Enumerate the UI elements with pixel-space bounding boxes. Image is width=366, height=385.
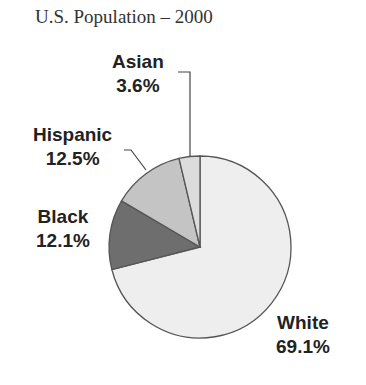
label-asian-pct: 3.6% [112,74,164,98]
pie-slices [109,156,291,338]
hispanic-leader-line [124,150,146,170]
label-hispanic: Hispanic 12.5% [33,123,112,171]
label-black-pct: 12.1% [36,229,90,253]
label-white: White 69.1% [276,311,330,359]
label-asian: Asian 3.6% [112,50,164,98]
label-asian-name: Asian [112,50,164,74]
label-white-pct: 69.1% [276,335,330,359]
label-black-name: Black [36,205,90,229]
asian-leader-line [178,72,190,156]
label-white-name: White [276,311,330,335]
label-hispanic-pct: 12.5% [33,147,112,171]
label-hispanic-name: Hispanic [33,123,112,147]
label-black: Black 12.1% [36,205,90,253]
